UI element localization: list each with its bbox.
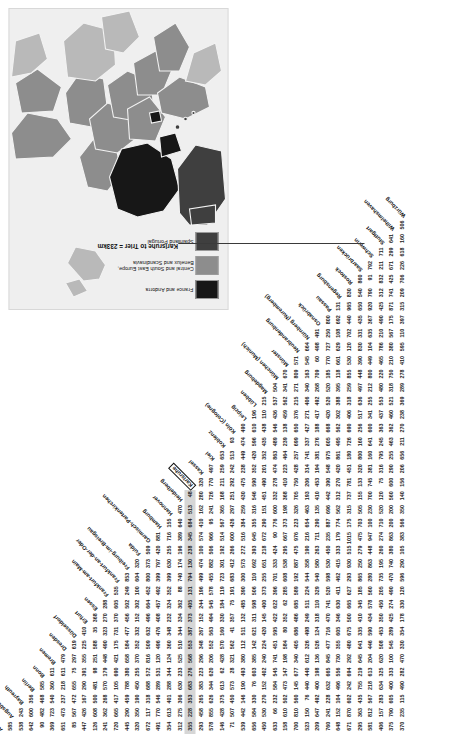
matrix-row: 5394421461904933801125111324853903005732… <box>237 219 248 734</box>
matrix-cell: 420 <box>258 626 269 640</box>
matrix-cell: 405 <box>290 639 301 653</box>
matrix-cell: 425 <box>385 612 396 626</box>
matrix-cell: 375 <box>385 720 396 734</box>
matrix-cell: 545 <box>301 355 312 369</box>
matrix-cell: 255 <box>385 450 396 464</box>
matrix-cell: 653 <box>216 450 227 464</box>
matrix-cell: 588 <box>89 639 100 653</box>
matrix-cell: 468 <box>36 693 47 707</box>
matrix-cell: 702 <box>343 328 354 342</box>
matrix-cell: 235 <box>396 707 407 721</box>
matrix-cell: 219 <box>354 666 365 680</box>
matrix-cell: 677 <box>290 666 301 680</box>
matrix-cell: 185 <box>322 368 333 382</box>
matrix-cell: 340 <box>290 653 301 667</box>
matrix-cell: 530 <box>322 558 333 572</box>
matrix-cell: 600 <box>385 477 396 491</box>
matrix-cell: 270 <box>99 612 110 626</box>
matrix-cell: 514 <box>216 531 227 545</box>
matrix-row: 241362268570179448490323270288 <box>99 219 110 734</box>
matrix-cell: 656 <box>248 720 259 734</box>
matrix-cell: 151 <box>258 504 269 518</box>
matrix-cell: 795 <box>375 450 386 464</box>
matrix-cell: 730 <box>332 653 343 667</box>
matrix-cell: 270 <box>396 422 407 436</box>
matrix-cell: 651 <box>258 558 269 572</box>
matrix-cell: 324 <box>163 599 174 613</box>
matrix-cell: 703 <box>354 517 365 531</box>
matrix-cell: 584 <box>248 707 259 721</box>
matrix-cell: 136 <box>311 653 322 667</box>
matrix-cell: 947 <box>364 531 375 545</box>
matrix-cell: 90 <box>269 531 280 545</box>
matrix-cell: 363 <box>354 707 365 721</box>
matrix-cell: 132 <box>237 612 248 626</box>
matrix-cell: 479 <box>57 653 68 667</box>
matrix-cell: 211 <box>396 436 407 450</box>
matrix-cell: 664 <box>142 599 153 613</box>
matrix-cell: 175 <box>343 517 354 531</box>
matrix-cell: 459 <box>121 693 132 707</box>
matrix-cell: 100 <box>195 544 206 558</box>
matrix-cell: 350 <box>375 612 386 626</box>
matrix-cell: 716 <box>163 531 174 545</box>
matrix-cell: 477 <box>322 639 333 653</box>
matrix-cell: 90 <box>36 720 47 734</box>
matrix-cell: 473 <box>279 680 290 694</box>
matrix-cell: 470 <box>322 612 333 626</box>
matrix-cell: 740 <box>385 558 396 572</box>
matrix-cell: 537 <box>269 395 280 409</box>
matrix-cell: 168 <box>216 490 227 504</box>
matrix-cell: 530 <box>258 707 269 721</box>
matrix-cell: 124 <box>163 653 174 667</box>
matrix-cell: 312 <box>332 490 343 504</box>
matrix-cell: 475 <box>237 477 248 491</box>
matrix-cell: 493 <box>237 666 248 680</box>
matrix-cell: 142 <box>248 639 259 653</box>
matrix-cell: 420 <box>332 463 343 477</box>
matrix-cell: 190 <box>131 693 142 707</box>
matrix-cell: 560 <box>364 585 375 599</box>
matrix-cell: 812 <box>364 707 375 721</box>
matrix-cell: 297 <box>68 653 79 667</box>
matrix-cell: 375 <box>216 693 227 707</box>
matrix-cell: 428 <box>216 653 227 667</box>
matrix-cell: 584 <box>121 639 132 653</box>
matrix-cell: 494 <box>205 612 216 626</box>
matrix-cell: 630 <box>332 599 343 613</box>
matrix-cell: 710 <box>375 517 386 531</box>
matrix-cell: 745 <box>364 477 375 491</box>
matrix-cell: 737 <box>343 490 354 504</box>
matrix-row: 7008105601456773404056864866855891928874… <box>290 219 301 734</box>
matrix-cell: 496 <box>332 680 343 694</box>
matrix-cell: 500 <box>89 693 100 707</box>
matrix-cell: 400 <box>385 680 396 694</box>
matrix-cell: 600 <box>226 531 237 545</box>
matrix-cell: 632 <box>142 626 153 640</box>
matrix-cell: 167 <box>78 693 89 707</box>
matrix-cell: 318 <box>142 693 153 707</box>
matrix-cell: 567 <box>364 693 375 707</box>
matrix-cell: 567 <box>216 517 227 531</box>
matrix-cell: 800 <box>142 571 153 585</box>
matrix-cell: 482 <box>36 707 47 721</box>
matrix-cell: 180 <box>343 450 354 464</box>
matrix-cell: 100 <box>131 585 142 599</box>
matrix-cell: 293 <box>343 571 354 585</box>
matrix-cell: 110 <box>396 328 407 342</box>
matrix-cell: 670 <box>279 368 290 382</box>
matrix-cell: 741 <box>385 287 396 301</box>
matrix-cell: 459 <box>279 409 290 423</box>
matrix-cell: 223 <box>279 463 290 477</box>
matrix-cell: 412 <box>226 558 237 572</box>
matrix-cell: 523 <box>301 720 312 734</box>
matrix-cell: 645 <box>354 653 365 667</box>
matrix-cell: 790 <box>385 707 396 721</box>
matrix-cell: 455 <box>205 571 216 585</box>
matrix-cell: 450 <box>375 599 386 613</box>
matrix-cell: 515 <box>343 544 354 558</box>
matrix-cell: 560 <box>385 490 396 504</box>
matrix-cell: 290 <box>311 517 322 531</box>
matrix-cell: 120 <box>152 653 163 667</box>
matrix-cell: 860 <box>354 273 365 287</box>
